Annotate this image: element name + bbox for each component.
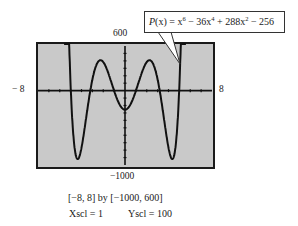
xmax-label: 8 [219,84,224,94]
callout-arg: (x) [155,16,167,27]
yscl-caption: Yscl = 100 [128,208,172,219]
callout-term2: − 36x [186,16,212,27]
ymax-label: 600 [113,28,127,38]
function-callout: P(x) = x6 − 36x4 + 288x2 − 256 [144,11,285,33]
callout-term3: + 288x [215,16,246,27]
window-caption: [−8, 8] by [−1000, 600] [68,192,163,203]
callout-eq: = x [167,16,183,27]
ymin-label: −1000 [110,171,134,181]
xscl-caption: Xscl = 1 [69,208,103,219]
xmin-label: − 8 [12,84,24,94]
callout-term4: − 256 [248,16,274,27]
